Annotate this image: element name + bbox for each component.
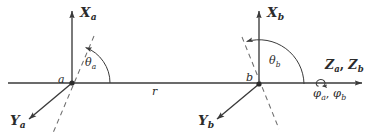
diagram-canvas: Xa Ya a θa Xb Yb b θb r Za, Zb φa, φb — [0, 0, 374, 136]
x-axis-b-label: Xb — [267, 6, 284, 20]
distance-label: r — [152, 86, 157, 97]
origin-b-label: b — [246, 72, 253, 83]
phi-rotation-label: φa, φb — [313, 88, 346, 100]
origin-point-b — [256, 81, 261, 86]
theta-a-label: θa — [85, 57, 96, 68]
origin-a-label: a — [58, 74, 65, 85]
y-axis-a-label: Ya — [10, 114, 26, 128]
y-axis-b-line — [217, 84, 259, 119]
z-axis-label: Za, Zb — [325, 59, 363, 72]
y-axis-b-label: Yb — [198, 114, 214, 128]
theta-b-label: θb — [269, 55, 280, 66]
x-axis-a-label: Xa — [80, 6, 96, 20]
y-axis-a-line — [29, 83, 72, 119]
diagram-vector-layer — [0, 0, 374, 136]
origin-point-a — [69, 80, 74, 85]
